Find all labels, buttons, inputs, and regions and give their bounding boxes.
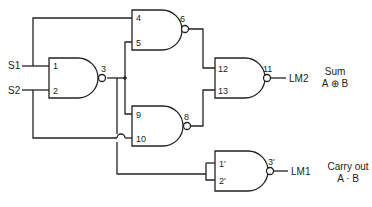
pin-label: 6: [180, 14, 185, 24]
wire-crossover: [117, 134, 125, 138]
sum-note: Sum: [325, 66, 346, 77]
pin-label: 2': [219, 176, 226, 186]
wire-out8-to-pin13: [190, 90, 215, 126]
sum-expression: A ⊕ B: [322, 78, 349, 89]
output-label-lm1: LM1: [291, 166, 311, 177]
input-label-s2: S2: [8, 85, 21, 96]
pin-label: 13: [218, 86, 228, 96]
carry-expression: A · B: [337, 173, 359, 184]
pin-label: 3': [268, 157, 275, 167]
pin-label: 1': [219, 159, 226, 169]
pin-label: 5: [136, 38, 141, 48]
pin-label: 1: [53, 61, 58, 71]
pin-label: 2: [53, 86, 58, 96]
pin-label: 10: [136, 134, 146, 144]
pin-label: 11: [263, 64, 272, 74]
pin-label: 12: [218, 64, 228, 74]
wire-out3-to-pin5: [125, 42, 132, 78]
wire-out3-to-carry: [117, 142, 206, 174]
input-label-s1: S1: [8, 60, 21, 71]
carry-note: Carry out: [327, 161, 368, 172]
half-adder-diagram: S1 S2 1 2 3 4 5 6 9 10 8 12 13 11 1' 2' …: [0, 0, 372, 207]
pin-label: 4: [136, 13, 141, 23]
wire-out6-to-pin12: [187, 29, 215, 68]
pin-label: 3: [101, 64, 106, 74]
wire-pin2p: [206, 163, 215, 180]
pin-label: 9: [136, 110, 141, 120]
wire-out3-to-pin9: [125, 78, 132, 114]
output-label-lm2: LM2: [289, 73, 309, 84]
pin-label: 8: [184, 112, 189, 122]
